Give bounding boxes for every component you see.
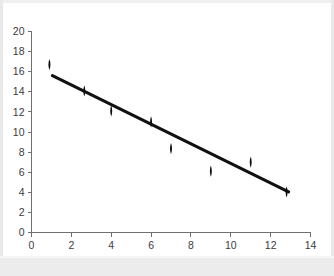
x-tick-label: 6 — [148, 239, 154, 251]
data-point-marker — [286, 186, 288, 197]
data-point-marker — [48, 59, 50, 70]
data-point-marker — [110, 105, 112, 116]
y-tick-label: 14 — [13, 85, 25, 97]
data-point-marker — [170, 143, 172, 154]
data-point-marker — [83, 85, 85, 96]
y-tick-label: 18 — [13, 45, 25, 57]
y-tick-label: 2 — [19, 206, 25, 218]
y-tick-label: 12 — [13, 106, 25, 118]
y-tick-label: 20 — [13, 25, 25, 37]
data-point-marker — [250, 157, 252, 168]
y-tick-label: 6 — [19, 166, 25, 178]
x-tick-label: 4 — [108, 239, 114, 251]
y-tick-label: 10 — [13, 126, 25, 138]
y-axis: 02468101214161820 — [13, 25, 32, 238]
x-tick-label: 12 — [265, 239, 277, 251]
x-tick-label: 8 — [188, 239, 194, 251]
x-tick-label: 10 — [225, 239, 237, 251]
y-tick-label: 4 — [19, 186, 25, 198]
data-points — [48, 59, 287, 197]
scatter-plot: 02468101214161820 02468101214 — [0, 0, 334, 276]
x-tick-label: 2 — [68, 239, 74, 251]
y-tick-label: 16 — [13, 65, 25, 77]
data-point-marker — [210, 166, 212, 177]
y-tick-label: 0 — [19, 226, 25, 238]
x-tick-label: 0 — [29, 239, 35, 251]
x-tick-label: 14 — [305, 239, 317, 251]
y-tick-label: 8 — [19, 146, 25, 158]
x-axis: 02468101214 — [29, 233, 317, 251]
chart-figure: 02468101214161820 02468101214 — [0, 0, 334, 276]
trend-line — [52, 76, 288, 192]
trend-line-path — [52, 76, 288, 192]
